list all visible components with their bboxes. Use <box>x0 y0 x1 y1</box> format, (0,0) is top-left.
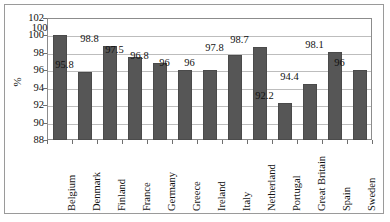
bar <box>303 84 317 140</box>
x-axis-category-label: Sweden <box>365 145 379 211</box>
x-axis-tick-mark <box>172 140 173 144</box>
x-axis-category-label: Belgium <box>65 145 79 211</box>
bar-value-label: 100 <box>23 23 57 34</box>
x-axis-category-label: Netherland <box>265 145 279 211</box>
x-axis-category-label: Portugal <box>290 145 304 211</box>
bar <box>78 72 92 140</box>
x-axis-category-label: Spain <box>340 145 354 211</box>
bar-value-label: 98.8 <box>73 34 107 45</box>
bar <box>153 63 167 140</box>
bars-layer: 10095.898.897.596.8969697.898.792.294.49… <box>47 18 372 140</box>
x-axis-category-labels: BelgiumDenmarkFinlandFranceGermanyGreece… <box>47 145 372 211</box>
x-axis-tick-mark <box>372 140 373 144</box>
bar <box>53 35 67 140</box>
x-axis-tick-mark <box>272 140 273 144</box>
x-axis-category-label: Italy <box>240 145 254 211</box>
x-axis-tick-mark <box>247 140 248 144</box>
bar <box>203 70 217 140</box>
x-axis-tick-mark <box>122 140 123 144</box>
x-axis-tick-mark <box>147 140 148 144</box>
bar <box>128 57 142 140</box>
bar-value-label: 96 <box>323 58 357 69</box>
bar-value-label: 92.2 <box>248 91 282 102</box>
x-axis-tick-mark <box>222 140 223 144</box>
x-axis-category-label: Great Britain <box>315 145 329 211</box>
x-axis-tick-mark <box>197 140 198 144</box>
bar-chart-figure: % 889092949698100102 10095.898.897.596.8… <box>0 0 390 222</box>
x-axis-category-label: Greece <box>190 145 204 211</box>
bar <box>178 70 192 140</box>
x-axis-category-label: France <box>140 145 154 211</box>
x-axis-tick-mark <box>322 140 323 144</box>
bar-value-label: 94.4 <box>273 72 307 83</box>
bar-value-label: 95.8 <box>48 60 82 71</box>
bar <box>278 103 292 140</box>
x-axis-tick-mark <box>347 140 348 144</box>
bar-value-label: 98.7 <box>223 35 257 46</box>
bar <box>228 55 242 140</box>
x-axis-tick-mark <box>72 140 73 144</box>
x-axis-category-label: Denmark <box>90 145 104 211</box>
bar-value-label: 96 <box>173 58 207 69</box>
x-axis-tick-mark <box>97 140 98 144</box>
bar <box>103 46 117 140</box>
x-axis-category-label: Ireland <box>215 145 229 211</box>
bar-value-label: 98.1 <box>298 40 332 51</box>
x-axis-tick-mark <box>47 140 48 144</box>
x-axis-category-label: Germany <box>165 145 179 211</box>
y-axis-tick-marks <box>0 18 47 140</box>
bar <box>353 70 367 140</box>
x-axis-tick-mark <box>297 140 298 144</box>
x-axis-category-label: Finland <box>115 145 129 211</box>
